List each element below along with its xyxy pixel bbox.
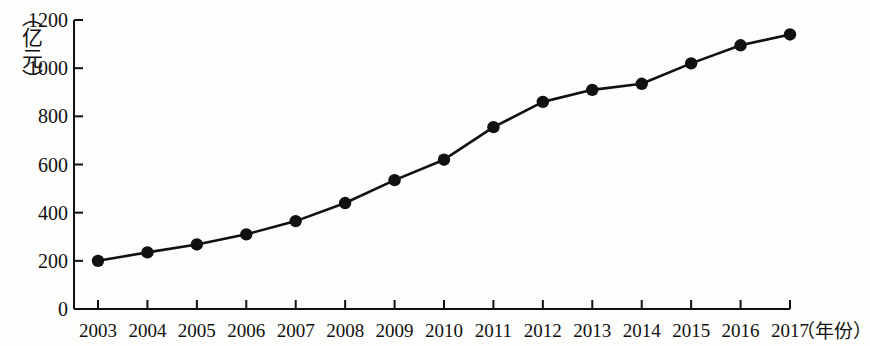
data-point [784, 28, 796, 40]
x-axis-tick-marks [98, 300, 790, 309]
y-axis-tick-marks [74, 20, 83, 261]
line-chart: （亿元） （年份） 020040060080010001200 20032004… [0, 0, 870, 346]
series-markers [92, 28, 796, 267]
data-point [636, 78, 648, 90]
data-point [438, 153, 450, 165]
series-line [98, 34, 790, 260]
data-point [537, 96, 549, 108]
data-point [92, 255, 104, 267]
data-point [388, 174, 400, 186]
data-point [586, 84, 598, 96]
data-point [339, 197, 351, 209]
plot-area [0, 0, 870, 346]
data-point [290, 215, 302, 227]
data-point [191, 238, 203, 250]
data-point [734, 39, 746, 51]
data-point [685, 57, 697, 69]
data-point [240, 228, 252, 240]
data-point [487, 121, 499, 133]
data-series [92, 28, 796, 267]
data-point [141, 246, 153, 258]
